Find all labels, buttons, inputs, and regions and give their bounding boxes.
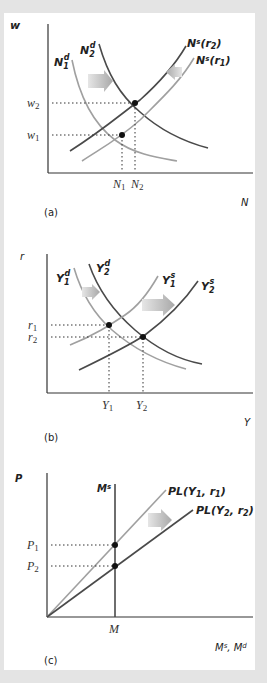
equilibrium-point-2 xyxy=(112,563,118,569)
y-axis-label-p: P xyxy=(15,473,23,484)
tick-n2: N2 xyxy=(130,177,144,192)
caption-a: (a) xyxy=(44,207,58,218)
label-money-supply: Ms xyxy=(97,483,111,494)
curve-y2-demand xyxy=(89,264,202,364)
label-n1-demand: N1d xyxy=(54,53,70,71)
curve-ns-r2 xyxy=(70,46,186,151)
equilibrium-point-2 xyxy=(132,100,138,106)
label-pl-y2-r2: PL(Y2, r2) xyxy=(196,504,254,518)
equilibrium-point-1 xyxy=(119,132,125,138)
label-n2-demand: N2d xyxy=(80,41,96,59)
curve-n1-demand xyxy=(72,60,177,161)
tick-m: M xyxy=(108,622,120,636)
panel-c: P Ms PL(Y1, r1) PL(Y2, r2) P1 P2 M Ms, M… xyxy=(15,473,254,666)
tick-y1: Y1 xyxy=(102,398,113,413)
label-y1-demand: Y1d xyxy=(56,269,71,287)
label-y2-supply: Y2s xyxy=(201,277,215,295)
y-axis-label-r: r xyxy=(20,251,25,262)
label-ns-r2: Ns(r2) xyxy=(187,37,221,51)
curve-n2-demand xyxy=(99,44,208,148)
tick-w2: w2 xyxy=(27,96,40,111)
tick-y2: Y2 xyxy=(136,398,147,413)
caption-b: (b) xyxy=(44,432,58,443)
label-y1-supply: Y1s xyxy=(162,271,176,289)
x-axis-label-n: N xyxy=(241,197,249,208)
label-ns-r1: Ns(r1) xyxy=(196,54,230,68)
demand-shift-arrow-icon xyxy=(82,284,100,300)
tick-w1: w1 xyxy=(27,128,40,143)
tick-p1: P1 xyxy=(26,538,39,553)
curve-pl-y1-r1 xyxy=(47,490,166,617)
panel-b: r Y1d Y2d Y1s Y2s r1 r2 Y1 Y2 Y (b) xyxy=(20,251,253,443)
equilibrium-point-1 xyxy=(112,542,118,548)
panel-a: w N1d N2d Ns(r2) Ns(r1) w2 w1 N1 N2 N (a… xyxy=(10,19,253,218)
y-axis-label-w: w xyxy=(10,19,21,32)
curve-pl-y2-r2 xyxy=(47,510,193,617)
label-pl-y1-r1: PL(Y1, r1) xyxy=(168,485,226,499)
tick-n1: N1 xyxy=(112,177,126,192)
x-axis-label-money: Ms, Md xyxy=(215,642,247,653)
economics-diagram: w N1d N2d Ns(r2) Ns(r1) w2 w1 N1 N2 N (a… xyxy=(0,0,267,683)
label-y2-demand: Y2d xyxy=(96,259,111,277)
equilibrium-point-2 xyxy=(140,334,146,340)
caption-c: (c) xyxy=(44,655,57,666)
tick-p2: P2 xyxy=(26,559,39,574)
x-axis-label-y: Y xyxy=(244,417,251,428)
equilibrium-point-1 xyxy=(106,322,112,328)
